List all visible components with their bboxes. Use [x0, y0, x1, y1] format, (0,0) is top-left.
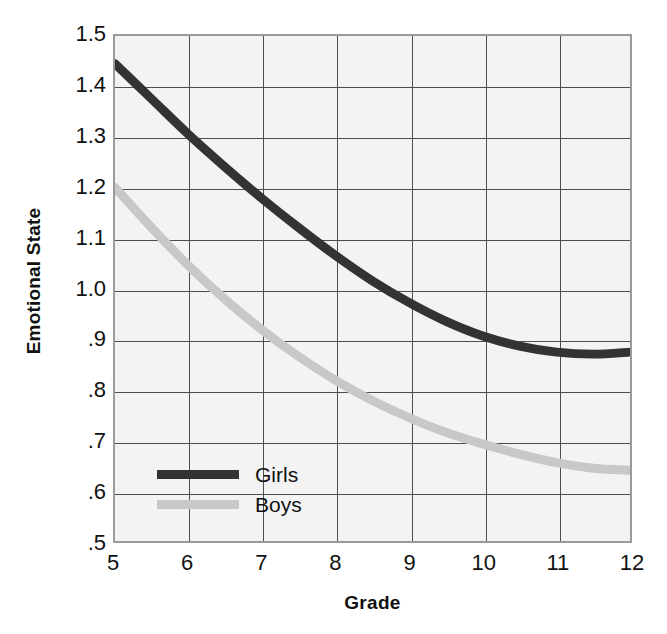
x-tick-label: 12: [602, 552, 662, 574]
series-line-girls: [115, 64, 630, 354]
legend-item-boys: Boys: [157, 489, 347, 519]
legend-label-girls: Girls: [255, 464, 298, 485]
x-axis-title: Grade: [113, 592, 632, 614]
x-tick-label: 11: [528, 552, 588, 574]
x-tick-label: 8: [305, 552, 365, 574]
x-tick-label: 6: [157, 552, 217, 574]
plot-area: Girls Boys: [113, 34, 632, 543]
x-tick-label: 9: [380, 552, 440, 574]
chart-legend: Girls Boys: [157, 459, 347, 519]
legend-label-boys: Boys: [255, 494, 302, 515]
series-line-boys: [115, 188, 630, 471]
x-tick-label: 10: [454, 552, 514, 574]
legend-item-girls: Girls: [157, 459, 347, 489]
x-tick-label: 5: [83, 552, 143, 574]
chart-figure: Emotional State .5.6.7.8.91.01.11.21.31.…: [0, 0, 667, 634]
x-tick-label: 7: [231, 552, 291, 574]
legend-swatch-boys: [157, 500, 239, 509]
legend-swatch-girls: [157, 470, 239, 479]
